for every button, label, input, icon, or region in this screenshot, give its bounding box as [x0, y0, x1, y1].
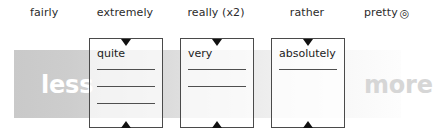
option-box-label: absolutely [279, 47, 336, 61]
blank-line [188, 86, 246, 87]
triangle-up-icon [303, 121, 313, 128]
scale-label-less: less [41, 70, 93, 100]
blank-line [97, 103, 155, 104]
header-label-rather: rather [290, 6, 326, 21]
option-box-blank-lines [97, 69, 155, 120]
header-label-text: extremely [97, 6, 153, 19]
circled-ring-icon: ◎ [400, 7, 410, 20]
header-label-pretty: pretty◎ [364, 6, 409, 21]
diagram-canvas: less more fairly extremely really (x2) r… [0, 0, 439, 138]
blank-line [97, 86, 155, 87]
header-label-really: really (x2) [187, 6, 246, 21]
option-box-label: very [188, 47, 212, 61]
header-label-text: pretty [364, 6, 398, 19]
scale-label-more: more [364, 70, 433, 100]
triangle-down-icon [303, 39, 313, 46]
triangle-down-icon [121, 39, 131, 46]
option-box-blank-lines [188, 69, 246, 103]
option-box[interactable]: absolutely [271, 38, 345, 128]
blank-line [188, 69, 246, 70]
blank-line [97, 69, 155, 70]
triangle-up-icon [121, 121, 131, 128]
option-box-blank-lines [279, 69, 337, 86]
header-label-fairly: fairly [30, 6, 60, 21]
triangle-down-icon [212, 39, 222, 46]
header-label-text: really (x2) [187, 6, 244, 19]
option-box-label: quite [97, 47, 125, 61]
header-label-text: rather [290, 6, 324, 19]
header-label-text: fairly [30, 6, 58, 19]
option-box[interactable]: quite [89, 38, 163, 128]
triangle-up-icon [212, 121, 222, 128]
option-box[interactable]: very [180, 38, 254, 128]
header-label-extremely: extremely [97, 6, 155, 21]
blank-line [279, 69, 337, 70]
